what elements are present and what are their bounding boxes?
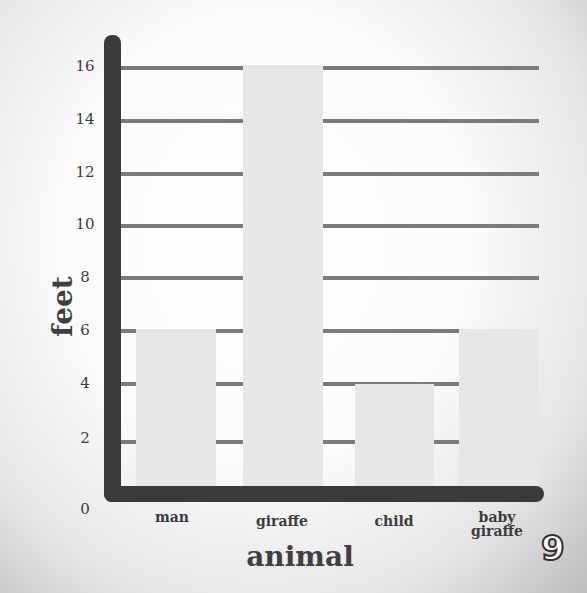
bar-baby-giraffe [459, 329, 539, 488]
category-label-baby-giraffe: baby giraffe [452, 510, 542, 538]
category-label-baby-line2: giraffe [452, 524, 542, 538]
y-tick-0: 0 [70, 500, 100, 518]
x-axis-label: animal [240, 540, 360, 573]
bar-man [136, 329, 216, 488]
category-label-giraffe: giraffe [237, 514, 327, 528]
y-tick-10: 10 [70, 215, 100, 233]
y-tick-6: 6 [70, 321, 100, 339]
y-axis [104, 35, 121, 502]
y-tick-4: 4 [70, 374, 100, 392]
category-label-child: child [349, 514, 439, 528]
bar-giraffe [243, 65, 323, 488]
y-tick-16: 16 [70, 57, 100, 75]
category-label-man: man [127, 510, 217, 524]
y-tick-12: 12 [70, 163, 100, 181]
bar-child [355, 384, 434, 488]
y-tick-8: 8 [70, 268, 100, 286]
page-number: 9 [541, 528, 565, 568]
y-tick-2: 2 [70, 429, 100, 447]
category-label-baby-line1: baby [452, 510, 542, 524]
x-axis [104, 486, 544, 502]
y-tick-14: 14 [70, 110, 100, 128]
